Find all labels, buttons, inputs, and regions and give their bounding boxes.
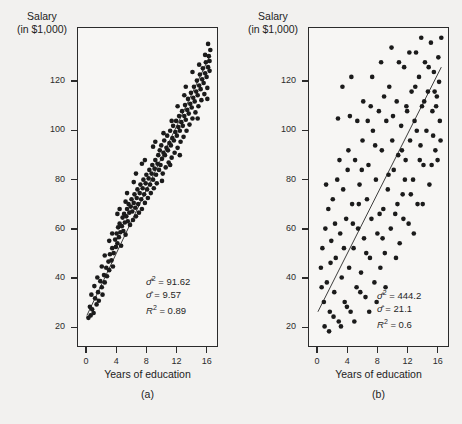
data-point	[186, 111, 191, 116]
data-point	[322, 300, 327, 305]
data-point	[348, 114, 353, 119]
data-point	[125, 191, 130, 196]
data-point	[149, 191, 154, 196]
x-tick-label: 0	[304, 356, 330, 366]
stat-sigma-a: σ̂ = 9.57	[146, 288, 190, 301]
x-tick-label: 0	[73, 356, 99, 366]
data-point	[360, 138, 365, 143]
data-point	[119, 243, 124, 248]
data-point	[352, 319, 357, 324]
data-point	[359, 168, 364, 173]
data-point	[344, 216, 349, 221]
data-point	[422, 99, 427, 104]
data-point	[107, 268, 112, 273]
data-point	[429, 40, 434, 45]
data-point	[192, 84, 197, 89]
data-point	[324, 182, 329, 187]
data-point	[350, 202, 355, 207]
panel-a: Salary (in $1,000) σ̂2 = 91.62 σ̂ = 9.57…	[0, 0, 231, 424]
data-point	[184, 128, 189, 133]
data-point	[356, 202, 361, 207]
data-point	[342, 300, 347, 305]
data-point	[99, 264, 104, 269]
data-point	[143, 158, 148, 163]
data-point	[154, 181, 159, 186]
data-point	[385, 187, 390, 192]
data-point	[128, 204, 133, 209]
y-tick-label: 100	[31, 124, 65, 134]
data-point	[356, 226, 361, 231]
data-point	[100, 292, 105, 297]
data-point	[161, 131, 166, 136]
data-point	[370, 75, 375, 80]
data-point	[143, 201, 148, 206]
data-point	[342, 246, 347, 251]
data-point	[394, 99, 399, 104]
data-point	[330, 197, 335, 202]
data-point	[168, 163, 173, 168]
data-point	[329, 238, 334, 243]
data-point	[171, 124, 176, 129]
data-point	[149, 171, 154, 176]
stat-r-squared-b: R2 = 0.6	[377, 315, 421, 331]
data-point	[406, 221, 411, 226]
data-point	[432, 89, 437, 94]
y-tick-label: 120	[31, 75, 65, 85]
data-point	[190, 70, 195, 75]
data-point	[414, 50, 419, 55]
y-tick-label: 60	[262, 223, 296, 233]
regression-line	[318, 67, 441, 312]
data-point	[395, 202, 400, 207]
y-tick-mark	[302, 327, 308, 328]
data-point	[404, 104, 409, 109]
y-tick-mark	[302, 228, 308, 229]
data-point	[365, 119, 370, 124]
x-tick-label: 8	[133, 356, 159, 366]
data-point	[322, 324, 327, 329]
data-point	[328, 260, 333, 265]
data-point	[439, 35, 444, 40]
data-point	[336, 116, 341, 121]
data-point	[383, 251, 388, 256]
y-tick-label: 80	[262, 174, 296, 184]
data-point	[373, 143, 378, 148]
x-tick-mark	[176, 347, 177, 353]
data-point	[142, 192, 147, 197]
data-point	[180, 109, 185, 114]
data-point	[205, 97, 210, 102]
data-point	[196, 104, 201, 109]
data-point	[386, 172, 391, 177]
data-point	[363, 295, 368, 300]
data-point	[377, 109, 382, 114]
stat-sigma-squared-b: σ̂2 = 444.2	[377, 286, 421, 302]
data-point	[327, 329, 332, 334]
data-point	[407, 50, 412, 55]
x-tick-mark	[316, 347, 317, 353]
data-point	[393, 212, 398, 217]
data-point	[423, 60, 428, 65]
data-point	[323, 226, 328, 231]
data-point	[412, 119, 417, 124]
data-point	[377, 212, 382, 217]
panel-caption-a: (a)	[77, 388, 218, 400]
data-point	[432, 70, 437, 75]
y-tick-mark	[302, 277, 308, 278]
data-point	[181, 135, 186, 140]
data-point	[134, 171, 139, 176]
data-point	[160, 171, 165, 176]
data-point	[335, 177, 340, 182]
y-tick-mark	[71, 80, 77, 81]
data-point	[437, 79, 442, 84]
data-point	[394, 256, 399, 261]
data-point	[140, 207, 145, 212]
data-point	[186, 97, 191, 102]
data-point	[327, 309, 332, 314]
data-point	[134, 196, 139, 201]
data-point	[123, 232, 128, 237]
y-axis-title-line2-b: (in $1,000)	[237, 23, 309, 36]
y-axis-title-line1-b: Salary	[237, 10, 309, 23]
x-tick-mark	[437, 347, 438, 353]
data-point	[195, 116, 200, 121]
data-point	[197, 62, 202, 67]
data-point	[397, 60, 402, 65]
